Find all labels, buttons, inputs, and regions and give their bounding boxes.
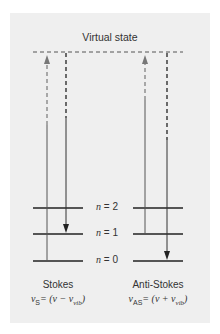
anti-stokes-formula: νAS= (ν + νvib) <box>111 293 205 307</box>
anti-stokes-excitation-arrow-icon <box>142 55 148 234</box>
stokes-label: Stokes <box>18 279 98 290</box>
level-label-n0: n = 0 <box>96 254 118 265</box>
level-label-n1: n = 1 <box>96 227 118 238</box>
stokes-emission-arrow-icon <box>63 53 69 233</box>
anti-stokes-levels <box>133 208 183 261</box>
anti-stokes-label: Anti-Stokes <box>118 279 198 290</box>
stokes-levels <box>33 208 83 261</box>
level-label-n2: n = 2 <box>96 201 118 212</box>
stokes-excitation-arrow-icon <box>44 55 50 261</box>
stokes-formula: νS= (ν − νvib) <box>13 293 103 307</box>
anti-stokes-emission-arrow-icon <box>164 53 170 260</box>
